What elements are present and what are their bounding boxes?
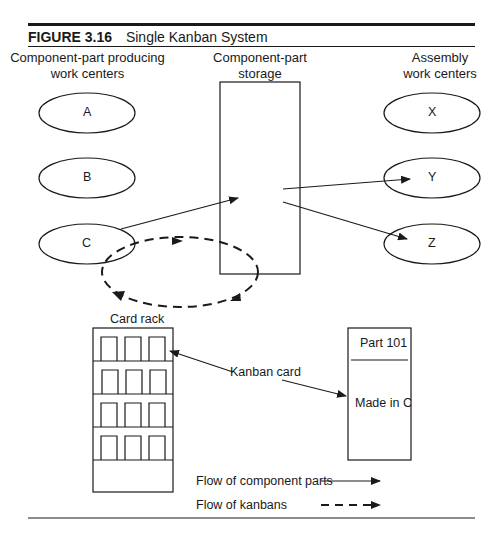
storage-box: [220, 82, 300, 274]
diagram-canvas: [0, 0, 502, 541]
card-rack-label: Card rack: [110, 312, 164, 326]
card-rack-slots: [101, 337, 166, 460]
legend-dashed-label: Flow of kanbans: [196, 498, 287, 512]
kanban-loop-arrow-top: [172, 237, 183, 245]
work-center-a-label: A: [83, 105, 91, 119]
legend-solid-label: Flow of component parts: [196, 474, 333, 488]
pointer-to-card: [282, 380, 346, 396]
card-rack-frame: [93, 328, 173, 492]
kanban-card-origin: Made in C: [355, 396, 412, 410]
work-center-z-label: Z: [428, 236, 436, 250]
kanban-flow-loop: [102, 237, 258, 307]
kanban-card-part: Part 101: [360, 336, 407, 350]
flow-storage-to-y: [283, 179, 410, 189]
work-center-c-label: C: [82, 236, 91, 250]
work-center-x-label: X: [428, 105, 436, 119]
kanban-card-pointer-label: Kanban card: [230, 365, 301, 379]
kanban-loop-arrow-right: [230, 293, 241, 301]
work-center-b-label: B: [83, 170, 91, 184]
flow-storage-to-z: [283, 202, 407, 239]
work-center-y-label: Y: [428, 170, 436, 184]
pointer-to-rack: [170, 351, 233, 372]
